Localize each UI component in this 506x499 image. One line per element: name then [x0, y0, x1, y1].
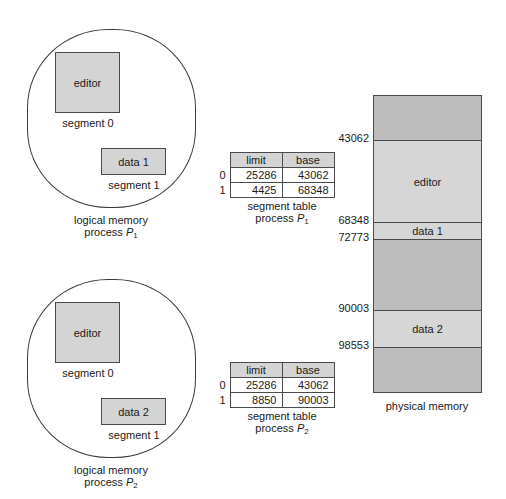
segment-table-caption-p2-line2-prefix: process [255, 422, 297, 434]
segment-table-p1-grid: limit base 0 25286 43062 1 4425 68348 [216, 152, 335, 198]
physical-band-data1-label: data 1 [412, 225, 443, 237]
segment-table-p1-row0-base: 43062 [282, 168, 334, 183]
physical-address-90003: 90003 [317, 302, 369, 314]
logical-segment-1-caption-p2: segment 1 [108, 429, 159, 441]
logical-memory-caption-p1: logical memory process P1 [74, 214, 148, 240]
segment-table-p1-row0-index: 0 [216, 168, 230, 183]
physical-address-68348: 68348 [317, 214, 369, 226]
physical-band-editor-label: editor [414, 176, 442, 188]
logical-memory-caption-p2: logical memory process P2 [74, 464, 148, 490]
segment-table-p1-row1-limit: 4425 [230, 183, 282, 198]
segment-table-p2-header-row: limit base [216, 363, 334, 378]
logical-memory-caption-p1-line2-prefix: process [84, 226, 126, 238]
logical-memory-caption-p2-line2-prefix: process [84, 476, 126, 488]
physical-band-data2: data 2 [374, 310, 481, 347]
logical-memory-caption-p1-line2-sub: 1 [133, 231, 137, 240]
segment-table-caption-p2-line2-sub: 2 [304, 427, 308, 436]
physical-address-43062: 43062 [317, 132, 369, 144]
segment-table-p2-row1-base: 90003 [282, 393, 334, 408]
segment-table-caption-p2: segment table process P2 [247, 410, 316, 436]
segment-table-p2-limit-header: limit [230, 363, 282, 378]
segment-table-p1-base-header: base [282, 153, 334, 168]
segment-table-p2-grid: limit base 0 25286 43062 1 8850 90003 [216, 362, 335, 408]
table-row: 0 25286 43062 [216, 168, 334, 183]
segment-table-caption-p2-line1: segment table [247, 410, 316, 422]
physical-band-data1: data 1 [374, 222, 481, 239]
segment-table-p1-index-header [216, 153, 230, 168]
physical-address-98553: 98553 [317, 339, 369, 351]
logical-segment-data2-p2-label: data 2 [118, 406, 149, 418]
segmentation-diagram: editor segment 0 data 1 segment 1 logica… [0, 0, 506, 499]
segment-table-p2-row0-index: 0 [216, 378, 230, 393]
logical-segment-0-caption-p2: segment 0 [62, 367, 113, 379]
segment-table-p1-row1-base: 68348 [282, 183, 334, 198]
physical-band-free-1 [374, 239, 481, 310]
logical-segment-editor-p2: editor [55, 302, 120, 363]
logical-memory-caption-p2-line2-sub: 2 [133, 481, 137, 490]
segment-table-caption-p1-line2-sub: 1 [304, 217, 308, 226]
physical-memory-caption: physical memory [386, 400, 469, 412]
table-row: 1 8850 90003 [216, 393, 334, 408]
logical-segment-data2-p2: data 2 [101, 398, 166, 425]
physical-band-editor: editor [374, 140, 481, 222]
segment-table-p1: limit base 0 25286 43062 1 4425 68348 [216, 152, 335, 198]
segment-table-p1-limit-header: limit [230, 153, 282, 168]
logical-segment-data1-p1: data 1 [101, 148, 166, 175]
table-row: 1 4425 68348 [216, 183, 334, 198]
segment-table-p1-header-row: limit base [216, 153, 334, 168]
table-row: 0 25286 43062 [216, 378, 334, 393]
logical-segment-editor-p2-label: editor [74, 327, 102, 339]
logical-segment-editor-p1-label: editor [74, 77, 102, 89]
segment-table-p2-base-header: base [282, 363, 334, 378]
segment-table-p2-row1-limit: 8850 [230, 393, 282, 408]
segment-table-p2-row0-base: 43062 [282, 378, 334, 393]
logical-segment-0-caption-p1: segment 0 [62, 117, 113, 129]
segment-table-caption-p1: segment table process P1 [247, 200, 316, 226]
segment-table-caption-p1-line2-prefix: process [255, 212, 297, 224]
segment-table-p2: limit base 0 25286 43062 1 8850 90003 [216, 362, 335, 408]
segment-table-caption-p1-line2-var: P [297, 212, 304, 224]
logical-segment-editor-p1: editor [55, 52, 120, 113]
physical-memory-block: editor data 1 data 2 [373, 95, 482, 393]
segment-table-p1-row0-limit: 25286 [230, 168, 282, 183]
segment-table-caption-p1-line1: segment table [247, 200, 316, 212]
physical-address-72773: 72773 [317, 231, 369, 243]
physical-band-data2-label: data 2 [412, 323, 443, 335]
segment-table-p2-row0-limit: 25286 [230, 378, 282, 393]
physical-band-free-0 [374, 96, 481, 140]
logical-memory-caption-p2-line1: logical memory [74, 464, 148, 476]
segment-table-caption-p2-line2-var: P [297, 422, 304, 434]
segment-table-p2-row1-index: 1 [216, 393, 230, 408]
segment-table-p2-index-header [216, 363, 230, 378]
segment-table-p1-row1-index: 1 [216, 183, 230, 198]
physical-band-free-2 [374, 347, 481, 392]
logical-memory-caption-p1-line1: logical memory [74, 214, 148, 226]
logical-segment-data1-p1-label: data 1 [118, 156, 149, 168]
logical-segment-1-caption-p1: segment 1 [108, 179, 159, 191]
